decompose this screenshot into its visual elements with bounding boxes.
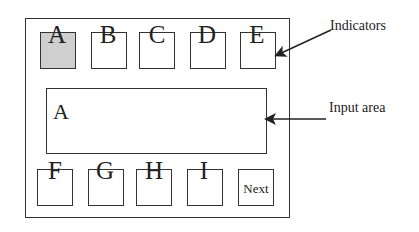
indicators-callout: Indicators xyxy=(330,18,386,34)
input-area-callout: Input area xyxy=(329,100,385,116)
indicators-arrow xyxy=(277,30,331,55)
callout-arrows xyxy=(0,0,419,232)
